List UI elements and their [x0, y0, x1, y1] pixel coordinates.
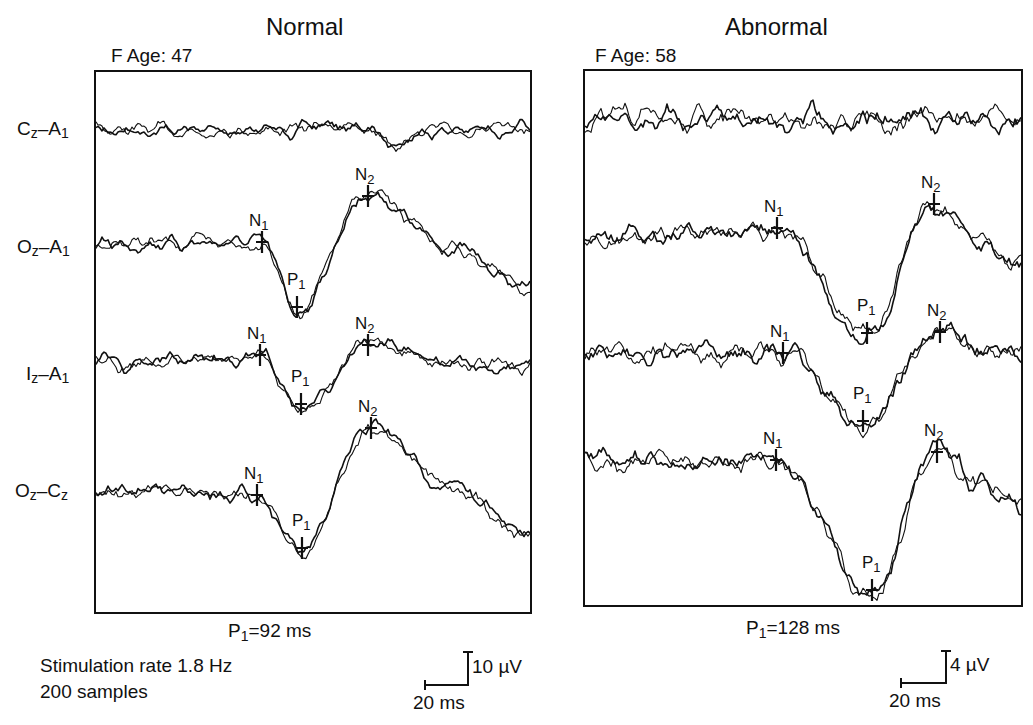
svg-text:N1: N1: [764, 197, 784, 219]
svg-text:N1: N1: [247, 324, 267, 346]
waveform-traces: [96, 100, 1021, 600]
peak-marker-n1: N1: [249, 211, 269, 253]
svg-text:P1: P1: [287, 270, 306, 292]
svg-text:N2: N2: [924, 421, 944, 443]
scale-bar-abnormal: [901, 651, 951, 688]
waveform-iz-a1-trace-1: [96, 339, 530, 410]
svg-text:N1: N1: [770, 322, 790, 344]
waveform-cz-a1-trace-2: [585, 103, 1021, 135]
svg-text:N1: N1: [249, 211, 269, 233]
peak-marker-p1: P1: [857, 296, 876, 344]
waveform-iz-a1-trace-2: [96, 338, 530, 412]
scale-bar-normal: [425, 652, 473, 690]
waveform-oz-cz-trace-1: [585, 439, 1021, 595]
waveform-cz-a1-trace-2: [96, 121, 530, 151]
svg-text:N2: N2: [355, 314, 375, 336]
vep-waveform-plot: N1P1N2N1P1N2N1P1N2N1P1N2N1P1N2N1P1N2: [0, 0, 1033, 725]
peak-marker-n2: N2: [355, 314, 375, 356]
svg-text:N2: N2: [921, 173, 941, 195]
svg-text:N1: N1: [763, 429, 783, 451]
waveform-oz-cz-trace-1: [96, 419, 530, 553]
peak-marker-p1: P1: [292, 511, 311, 559]
svg-text:N2: N2: [355, 165, 375, 187]
waveform-oz-a1-trace-1: [96, 192, 530, 317]
svg-text:P1: P1: [857, 296, 876, 318]
waveform-oz-a1-trace-1: [585, 205, 1021, 344]
peak-marker-p1: P1: [287, 270, 306, 318]
svg-text:P1: P1: [862, 553, 881, 575]
waveform-iz-a1-trace-1: [585, 322, 1021, 426]
peak-marker-n1: N1: [247, 324, 267, 366]
svg-text:P1: P1: [291, 367, 310, 389]
peak-marker-n1: N1: [244, 464, 264, 506]
waveform-oz-a1-trace-2: [585, 202, 1021, 333]
svg-text:P1: P1: [853, 384, 872, 406]
waveform-iz-a1-trace-2: [585, 327, 1021, 437]
frame-normal: [95, 71, 531, 613]
peak-markers: N1P1N2N1P1N2N1P1N2N1P1N2N1P1N2N1P1N2: [244, 165, 947, 601]
svg-text:N2: N2: [927, 301, 947, 323]
svg-text:P1: P1: [292, 511, 311, 533]
svg-text:N1: N1: [244, 464, 264, 486]
waveform-oz-cz-trace-2: [585, 448, 1021, 601]
svg-text:N2: N2: [358, 397, 378, 419]
